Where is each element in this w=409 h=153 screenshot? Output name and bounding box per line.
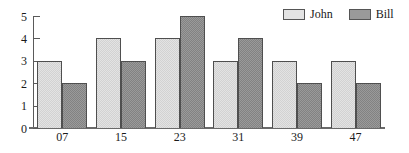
- y-tick-label: 2: [21, 78, 27, 90]
- bar-john-31: [213, 61, 238, 128]
- x-tick-label-39: 39: [272, 131, 322, 143]
- y-tick-0: 0: [33, 128, 40, 129]
- bar-john-47: [331, 61, 356, 128]
- bar-bill-31: [238, 38, 263, 128]
- y-tick-label: 0: [21, 123, 27, 135]
- bar-john-15: [96, 38, 121, 128]
- bar-bill-15: [121, 61, 146, 128]
- bar-group-39: [272, 16, 322, 128]
- bar-group-15: [96, 16, 146, 128]
- bar-john-39: [272, 61, 297, 128]
- bar-group-31: [213, 16, 263, 128]
- bar-bill-23: [180, 16, 205, 128]
- bar-group-23: [155, 16, 205, 128]
- x-tick-label-31: 31: [213, 131, 263, 143]
- y-tick-label: 5: [21, 11, 27, 23]
- bar-bill-07: [62, 83, 87, 128]
- x-tick-label-07: 07: [37, 131, 87, 143]
- x-axis-labels: 071523313947: [33, 131, 385, 143]
- bar-group-07: [37, 16, 87, 128]
- bar-groups: [33, 16, 385, 128]
- y-tick-label: 4: [21, 33, 27, 45]
- y-tick-label: 3: [21, 55, 27, 67]
- bar-bill-47: [356, 83, 381, 128]
- bar-chart: John Bill 012345 071523313947: [0, 0, 409, 153]
- x-tick-label-47: 47: [331, 131, 381, 143]
- x-tick-label-23: 23: [155, 131, 205, 143]
- bar-john-23: [155, 38, 180, 128]
- bar-john-07: [37, 61, 62, 128]
- bar-bill-39: [297, 83, 322, 128]
- x-tick-label-15: 15: [96, 131, 146, 143]
- y-tick-label: 1: [21, 100, 27, 112]
- bar-group-47: [331, 16, 381, 128]
- plot-area: 012345: [33, 16, 385, 128]
